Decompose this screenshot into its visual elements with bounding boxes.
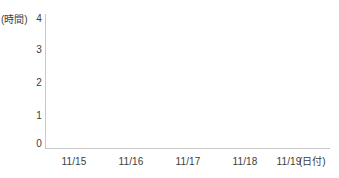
x-axis-unit-label: (日付)	[299, 156, 326, 168]
x-tick-label-2: 11/16	[103, 156, 159, 168]
y-tick-label-1: 1	[0, 111, 42, 121]
y-axis-tick-labels: 4 3 2 1 0	[0, 0, 42, 178]
y-tick-label-0: 0	[0, 139, 42, 149]
y-tick-label-4: 4	[0, 14, 42, 24]
plot-area	[46, 14, 330, 148]
x-tick-label-3: 11/17	[160, 156, 216, 168]
y-tick-label-3: 3	[0, 45, 42, 55]
y-tick-label-2: 2	[0, 78, 42, 88]
time-by-date-chart: (時間) 4 3 2 1 0 11/15 11/16 11/17 11/18 1…	[0, 0, 339, 178]
x-tick-label-1: 11/15	[46, 156, 102, 168]
x-axis-tick-labels: 11/15 11/16 11/17 11/18 11/19	[0, 156, 339, 170]
x-axis-line	[45, 148, 330, 149]
